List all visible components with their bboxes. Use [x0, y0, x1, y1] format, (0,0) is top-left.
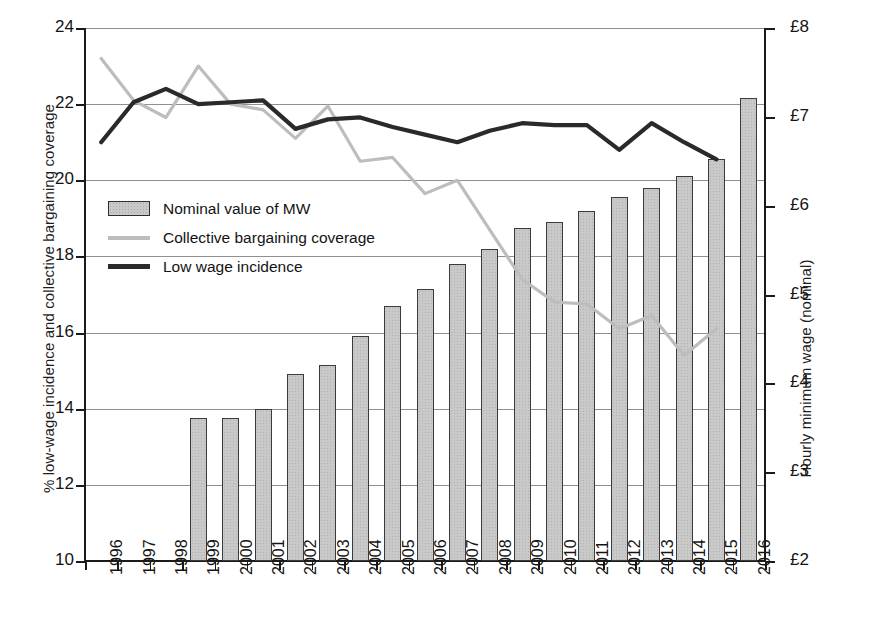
line-low-wage-incidence — [101, 89, 716, 159]
line-series-group — [85, 28, 765, 561]
left-axis-tick-label: 24 — [28, 17, 74, 37]
legend-item: Low wage incidence — [108, 254, 375, 279]
x-axis-tick-mark — [85, 561, 87, 570]
legend-item: Collective bargaining coverage — [108, 225, 375, 250]
left-axis-tick-label: 22 — [28, 93, 74, 113]
light-line-swatch-icon — [108, 236, 150, 240]
left-axis-tick-label: 16 — [28, 322, 74, 342]
right-axis-tick-label: £3 — [790, 461, 840, 481]
legend-label: Nominal value of MW — [163, 200, 310, 218]
bar-swatch-icon — [108, 201, 150, 216]
right-axis-tick-mark — [766, 28, 775, 30]
chart-legend: Nominal value of MW Collective bargainin… — [108, 196, 375, 283]
left-axis-tick-label: 20 — [28, 169, 74, 189]
right-axis-tick-mark — [766, 117, 775, 119]
right-axis-tick-label: £4 — [790, 372, 840, 392]
legend-label: Low wage incidence — [163, 258, 303, 276]
right-axis-tick-label: £5 — [790, 284, 840, 304]
right-axis-tick-label: £7 — [790, 106, 840, 126]
chart-figure: % low-wage incidence and collective barg… — [0, 0, 882, 633]
left-axis-tick-label: 12 — [28, 474, 74, 494]
right-axis-tick-label: £6 — [790, 195, 840, 215]
left-axis-tick-label: 14 — [28, 398, 74, 418]
left-axis-tick-label: 18 — [28, 245, 74, 265]
right-axis-tick-label: £2 — [790, 550, 840, 570]
plot-area — [85, 28, 765, 561]
right-axis-tick-mark — [766, 383, 775, 385]
right-axis-tick-mark — [766, 295, 775, 297]
legend-item: Nominal value of MW — [108, 196, 375, 221]
left-axis-tick-label: 10 — [28, 550, 74, 570]
right-axis-tick-mark — [766, 472, 775, 474]
dark-line-swatch-icon — [108, 264, 150, 269]
right-axis-tick-label: £8 — [790, 17, 840, 37]
right-axis-tick-mark — [766, 206, 775, 208]
legend-label: Collective bargaining coverage — [163, 229, 375, 247]
